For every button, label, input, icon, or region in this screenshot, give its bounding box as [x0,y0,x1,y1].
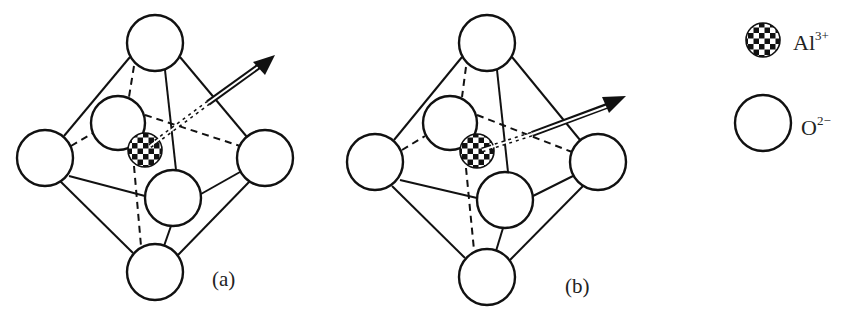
octahedra-diagram: (a) [0,0,848,318]
o-ion-left [347,134,403,190]
legend: Al3+ O2− [735,23,831,151]
legend-element-al: Al [793,30,815,55]
o-ion-top [459,15,515,71]
o-ion-left [17,130,73,186]
svg-text:O2−: O2− [801,113,831,140]
octahedron-panel-b: (b) [347,15,626,305]
o-ion-front [145,170,201,226]
o-ion-bottom [127,244,183,300]
panel-label-a: (a) [212,267,235,291]
al-ion-center [128,133,162,167]
checkered-circle-icon [746,23,780,57]
open-circle-icon [735,95,791,151]
legend-charge-o: 2− [817,113,831,128]
arrowhead-icon [253,55,275,75]
o-ion-right [570,134,626,190]
o-ion-bottom [459,249,515,305]
octahedron-panel-a: (a) [17,15,293,300]
o-ion-right [237,130,293,186]
legend-item-o: O2− [735,95,831,151]
o-ion-front [477,172,533,228]
legend-charge-al: 3+ [815,28,829,43]
al-ion-center [460,134,494,168]
legend-item-al: Al3+ [746,23,829,57]
arrowhead-icon [602,96,626,113]
o-ion-top [127,15,183,71]
legend-element-o: O [801,115,817,140]
panel-label-b: (b) [565,274,590,298]
svg-text:Al3+: Al3+ [793,28,829,55]
